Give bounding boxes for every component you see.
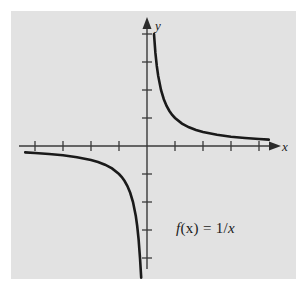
plot-panel: x y f(x) = 1/x	[11, 11, 296, 279]
coordinate-plane: x y	[11, 11, 296, 279]
function-equals: = 1/	[199, 220, 228, 236]
function-variable: x	[228, 220, 235, 236]
x-axis-label: x	[281, 139, 288, 154]
y-axis-arrow-icon	[143, 17, 152, 29]
function-equation-label: f(x) = 1/x	[176, 220, 235, 237]
function-argument: (x)	[180, 220, 198, 236]
x-axis-arrow-icon	[269, 142, 281, 151]
curve-positive-branch	[154, 34, 269, 140]
figure-root: x y f(x) = 1/x	[0, 0, 308, 292]
curve-negative-branch	[25, 152, 141, 277]
y-axis-label: y	[153, 18, 161, 33]
